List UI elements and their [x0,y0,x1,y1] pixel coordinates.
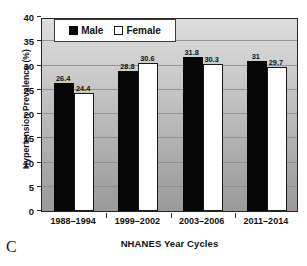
x-axis-tick-label: 2011–2014 [234,216,298,226]
legend-item-female: Female [114,25,160,36]
x-axis-tick-label: 1999–2002 [105,216,169,226]
y-axis-tick-label: 5 [8,182,34,193]
legend-swatch-male-icon [69,26,78,35]
bar-female-1999–2002 [138,63,158,211]
y-axis-tick [37,162,41,163]
bar-value-label: 26.4 [49,74,77,83]
legend-swatch-female-icon [114,26,123,35]
y-axis-tick-label: 20 [8,109,34,120]
y-axis-tick-label: 0 [8,206,34,217]
y-axis-tick [37,89,41,90]
bar-value-label: 24.4 [69,84,97,93]
y-axis-tick [37,16,41,17]
panel-letter: C [6,238,17,256]
bar-value-label: 28.8 [113,62,141,71]
y-axis-tick [37,210,41,211]
x-axis-title: NHANES Year Cycles [41,238,298,249]
chart-legend: Male Female [54,19,176,42]
legend-label-female: Female [126,25,160,36]
legend-item-male: Male [69,25,103,36]
bar-male-1988–1994 [54,83,74,211]
bar-value-label: 30.6 [133,54,161,63]
bar-value-label: 29.7 [262,58,290,67]
y-axis-tick-label: 10 [8,158,34,169]
bar-female-2011–2014 [267,67,287,211]
y-axis-tick [37,113,41,114]
y-axis-tick-label: 35 [8,36,34,47]
y-axis-tick-label: 30 [8,61,34,72]
bar-male-2011–2014 [247,61,267,211]
bar-value-label: 30.3 [198,55,226,64]
bar-male-1999–2002 [118,71,138,211]
y-axis-tick [37,186,41,187]
plot-area [41,18,298,212]
y-axis-tick [37,137,41,138]
y-axis-tick [37,65,41,66]
bar-male-2003–2006 [183,57,203,211]
bar-female-1988–1994 [74,93,94,211]
y-axis-tick-label: 25 [8,85,34,96]
x-axis-tick-label: 1988–1994 [41,216,105,226]
y-axis-tick-label: 40 [8,12,34,23]
x-axis-tick-label: 2003–2006 [170,216,234,226]
legend-label-male: Male [81,25,103,36]
figure-panel-c: Hypertension Prevalence (%) 051015202530… [0,0,307,266]
plot-inner [42,19,297,211]
bar-female-2003–2006 [203,64,223,211]
y-axis-tick-label: 15 [8,133,34,144]
y-axis-tick [37,40,41,41]
